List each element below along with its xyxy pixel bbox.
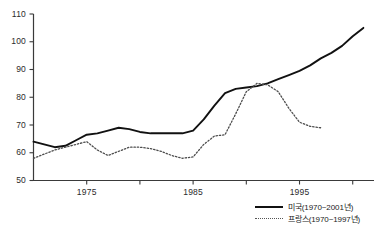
y-tick-label: 60 [2,147,26,157]
plot-area [0,0,381,232]
legend-label-france: 프랑스(1970~1997년) [288,213,360,224]
y-tick-label: 50 [2,175,26,185]
legend-swatch-dotted-icon [255,215,283,223]
y-tick-label: 70 [2,120,26,130]
y-tick-label: 80 [2,92,26,102]
series-line-us [34,28,364,147]
line-chart: 5060708090100110 197519851995 미국(1970~20… [0,0,381,232]
series-line-france [34,83,321,158]
y-tick-label: 110 [2,9,26,19]
x-tick-label: 1985 [173,187,213,197]
chart-legend: 미국(1970~2001년) 프랑스(1970~1997년) [255,201,379,225]
legend-label-us: 미국(1970~2001년) [288,201,353,212]
x-tick-label: 1995 [280,187,320,197]
legend-item-france: 프랑스(1970~1997년) [255,213,379,224]
y-tick-label: 100 [2,36,26,46]
x-tick-label: 1975 [67,187,107,197]
y-tick-label: 90 [2,64,26,74]
x-axis-ticks [87,181,353,185]
legend-swatch-solid-icon [255,203,283,211]
legend-item-us: 미국(1970~2001년) [255,201,379,212]
